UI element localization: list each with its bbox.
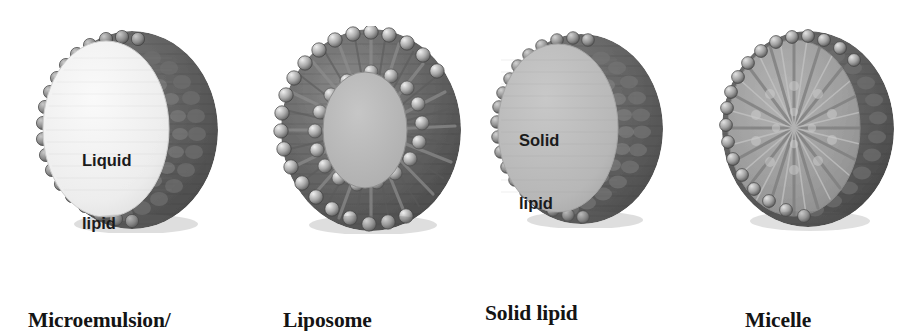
caption-micelle-line1: Micelle: [745, 308, 811, 331]
panel-liposome: Liposome: [255, 0, 475, 331]
panel-solid-lipid-nanoparticle: Solid lipid Solid lipid nanoparticle: [475, 0, 700, 331]
caption-liposome: Liposome: [283, 258, 372, 331]
microemulsion-core-label-line2: lipid: [82, 213, 131, 234]
solid-lipid-nanoparticle-sphere-graphic: [487, 30, 665, 228]
panel-microemulsion: Liquid lipid Microemulsion/ Nanoemulsion: [0, 0, 255, 331]
caption-micelle: Micelle: [745, 258, 811, 331]
solid-lipid-nanoparticle-core-label-line2: lipid: [519, 193, 559, 214]
panel-micelle: Micelle: [700, 0, 907, 331]
solid-lipid-nanoparticle-core-label-line1: Solid: [519, 130, 559, 151]
solid-lipid-nanoparticle-core-label: Solid lipid: [519, 88, 559, 256]
caption-microemulsion: Microemulsion/ Nanoemulsion: [28, 258, 171, 331]
microemulsion-core-label: Liquid lipid: [82, 108, 131, 276]
caption-solid-lipid-nanoparticle: Solid lipid nanoparticle: [485, 251, 600, 331]
caption-liposome-line1: Liposome: [283, 308, 372, 331]
lipid-nanocarrier-figure: Liquid lipid Microemulsion/ Nanoemulsion: [0, 0, 907, 331]
micelle-sphere-graphic: [714, 28, 900, 232]
liposome-sphere-graphic: [273, 26, 465, 234]
caption-microemulsion-line1: Microemulsion/: [28, 308, 171, 331]
caption-solid-lipid-nanoparticle-line1: Solid lipid: [485, 301, 600, 326]
microemulsion-core-label-line1: Liquid: [82, 150, 131, 171]
